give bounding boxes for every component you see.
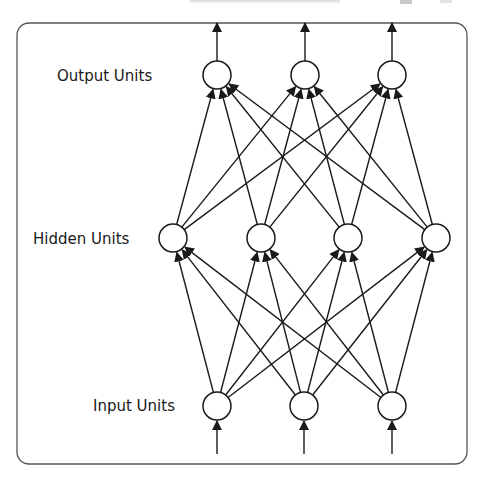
connection-input-0-to-hidden-0 [177,253,214,393]
neural-network-diagram: Output Units Hidden Units Input Units [0,0,489,483]
units [159,61,450,420]
connection-input-1-to-hidden-0 [182,250,295,395]
connection-input-1-to-hidden-2 [308,253,345,393]
hidden-unit-1 [247,224,275,252]
output-unit-1 [291,61,319,89]
input-layer-label: Input Units [93,397,175,415]
connection-hidden-3-to-output-1 [314,87,427,227]
output-unit-2 [378,61,406,89]
connection-input-2-to-hidden-0 [185,247,381,397]
connection-hidden-2-to-output-2 [352,89,388,224]
connection-hidden-1-to-output-0 [221,89,257,224]
hidden-unit-2 [334,224,362,252]
connection-input-2-to-hidden-1 [270,250,383,395]
hidden-unit-0 [159,224,187,252]
connection-hidden-3-to-output-0 [229,84,425,230]
connection-hidden-3-to-output-2 [396,89,432,224]
connection-input-2-to-hidden-2 [352,253,389,393]
connection-hidden-0-to-output-0 [177,89,213,224]
hidden-unit-3 [422,224,450,252]
output-unit-0 [203,61,231,89]
connection-input-2-to-hidden-3 [396,253,433,393]
input-unit-2 [378,392,406,420]
input-unit-1 [290,392,318,420]
connection-hidden-2-to-output-0 [226,87,339,227]
output-layer-label: Output Units [57,67,152,85]
hidden-layer-label: Hidden Units [33,230,130,248]
input-unit-0 [203,392,231,420]
